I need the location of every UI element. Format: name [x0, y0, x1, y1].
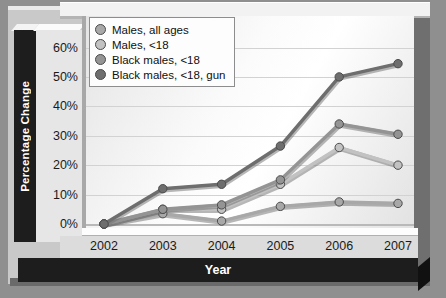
series-line-shadow	[105, 125, 399, 225]
x-axis-title: Year	[205, 263, 231, 277]
data-point-marker	[335, 73, 343, 81]
y-tick-label: 40%	[53, 99, 78, 113]
x-axis-title-band: Year	[18, 258, 418, 282]
y-tick-label: 20%	[53, 158, 78, 172]
data-point-marker	[394, 199, 402, 207]
x-tick-label: 2002	[90, 239, 118, 253]
y-tick-label: 30%	[53, 129, 78, 143]
data-point-marker	[276, 176, 284, 184]
data-point-marker	[394, 59, 402, 67]
data-point-marker	[276, 142, 284, 150]
y-tick-label: 50%	[53, 70, 78, 84]
plot-top-lip	[60, 2, 430, 17]
legend-item-label: Black males, <18, gun	[112, 69, 225, 81]
y-axis-title-band: Percentage Change	[14, 30, 36, 242]
data-point-marker	[276, 202, 284, 210]
x-tick-label: 2006	[325, 239, 353, 253]
data-point-marker	[217, 180, 225, 188]
data-point-marker	[335, 143, 343, 151]
data-point-marker	[217, 217, 225, 225]
x-tick-label: 2007	[384, 239, 412, 253]
plot-base-ledge	[82, 228, 418, 235]
data-point-marker	[159, 205, 167, 213]
legend-item[interactable]: Black males, <18	[95, 52, 225, 67]
data-point-marker	[100, 220, 108, 228]
x-tick-label: 2004	[208, 239, 236, 253]
legend-marker-icon	[95, 69, 106, 80]
data-point-marker	[217, 201, 225, 209]
legend-item-label: Black males, <18	[112, 54, 200, 66]
x-tick-label: 2005	[266, 239, 294, 253]
legend-item-label: Males, <18	[112, 39, 169, 51]
data-point-marker	[394, 130, 402, 138]
data-point-marker	[335, 198, 343, 206]
legend-marker-icon	[95, 54, 106, 65]
legend-item[interactable]: Males, all ages	[95, 22, 225, 37]
data-point-marker	[394, 161, 402, 169]
legend-item[interactable]: Black males, <18, gun	[95, 67, 225, 82]
y-tick-label: 10%	[53, 188, 78, 202]
legend-marker-icon	[95, 24, 106, 35]
y-tick-label: 0%	[60, 217, 78, 231]
legend-marker-icon	[95, 39, 106, 50]
data-point-marker	[159, 185, 167, 193]
series-line	[104, 124, 398, 224]
series-3	[100, 120, 402, 228]
y-axis-title: Percentage Change	[19, 81, 31, 192]
y-tick-label: 60%	[53, 41, 78, 55]
chart-legend: Males, all agesMales, <18Black males, <1…	[89, 17, 235, 87]
y-tick-label-column: 0%10%20%30%40%50%60%	[36, 30, 82, 242]
data-point-marker	[335, 120, 343, 128]
legend-item-label: Males, all ages	[112, 24, 189, 36]
legend-item[interactable]: Males, <18	[95, 37, 225, 52]
x-tick-label-strip: 200220032004200520062007	[60, 236, 418, 258]
x-tick-label: 2003	[149, 239, 177, 253]
chart-figure: Percentage Change 0%10%20%30%40%50%60% 2…	[0, 0, 446, 298]
